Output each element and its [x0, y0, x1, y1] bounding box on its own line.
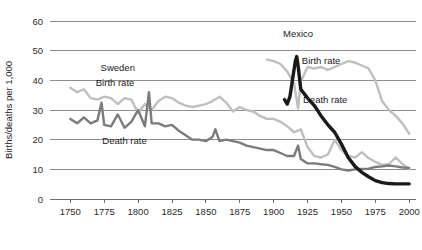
population-transition-chart: 0102030405060 17501775180018251850187519… — [0, 0, 422, 250]
annotations-group: SwedenBirth rateDeath rateMexicoBirth ra… — [96, 28, 348, 146]
y-axis-ticks-group: 0102030405060 — [32, 16, 43, 205]
x-tick-label-1975: 1975 — [365, 206, 386, 217]
x-tick-label-1900: 1900 — [263, 206, 284, 217]
y-tick-label-50: 50 — [32, 45, 43, 56]
y-tick-label-0: 0 — [38, 194, 43, 205]
mexico-birth-rate-label: Birth rate — [302, 55, 341, 66]
y-tick-label-40: 40 — [32, 75, 43, 86]
x-tick-label-1875: 1875 — [229, 206, 250, 217]
sweden-birth-rate-label: Birth rate — [96, 77, 135, 88]
series-line-sweden-birth-rate — [70, 88, 409, 170]
x-tick-label-1775: 1775 — [94, 206, 115, 217]
y-tick-label-20: 20 — [32, 134, 43, 145]
series-line-sweden-death-rate — [70, 92, 409, 170]
y-axis-title: Births/deaths per 1,000 — [3, 61, 14, 159]
x-tick-label-2000: 2000 — [399, 206, 420, 217]
x-axis-group: 1750177518001825185018751900192519501975… — [60, 199, 420, 217]
x-tick-label-1950: 1950 — [331, 206, 352, 217]
chart-canvas: 0102030405060 17501775180018251850187519… — [0, 0, 422, 250]
mexico-death-rate-label: Death rate — [303, 94, 347, 105]
x-tick-label-1750: 1750 — [60, 206, 81, 217]
y-tick-label-60: 60 — [32, 16, 43, 27]
y-tick-label-30: 30 — [32, 105, 43, 116]
x-tick-label-1825: 1825 — [161, 206, 182, 217]
sweden-death-rate-label: Death rate — [102, 135, 146, 146]
x-tick-label-1925: 1925 — [297, 206, 318, 217]
sweden-country-label: Sweden — [101, 62, 135, 73]
mexico-country-label: Mexico — [283, 28, 313, 39]
x-tick-label-1850: 1850 — [195, 206, 216, 217]
y-tick-label-10: 10 — [32, 164, 43, 175]
x-tick-label-1800: 1800 — [128, 206, 149, 217]
series-group — [70, 57, 409, 184]
